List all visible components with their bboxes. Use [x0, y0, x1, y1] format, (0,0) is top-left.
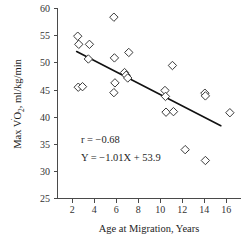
y-axis-ticks: [54, 9, 58, 199]
data-point-marker: [162, 108, 170, 116]
y-tick-label-25: 25: [40, 193, 50, 204]
x-tick-label-2: 2: [70, 204, 75, 215]
x-tick-label-8: 8: [136, 204, 141, 215]
y-tick-label-60: 60: [40, 3, 50, 14]
y-axis-title-prefix: Max V: [12, 119, 23, 149]
data-point-marker: [125, 48, 133, 56]
regression-fit-line: [77, 51, 221, 125]
y-tick-label-35: 35: [40, 139, 50, 150]
x-tick-label-10: 10: [155, 204, 165, 215]
y-tick-label-40: 40: [40, 112, 50, 123]
x-tick-label-4: 4: [92, 204, 97, 215]
x-tick-label-6: 6: [114, 204, 119, 215]
y-tick-label-45: 45: [40, 85, 50, 96]
x-tick-label-12: 12: [177, 204, 187, 215]
annotation-correlation: r = −0.68: [81, 134, 120, 145]
data-point-marker: [74, 32, 82, 40]
data-point-marker: [169, 107, 177, 115]
y-axis-title-suffix: , ml/kg/min: [12, 58, 23, 108]
y-axis-title: Max V̇O2, ml/kg/min: [11, 58, 26, 148]
x-axis-ticks: [72, 199, 226, 203]
data-point-marker: [110, 13, 118, 21]
y-axis-tick-labels: 60 55 50 45 40 35 30 25: [40, 3, 50, 204]
y-tick-label-55: 55: [40, 30, 50, 41]
data-point-marker: [110, 54, 118, 62]
scatter-plot-figure: 60 55 50 45 40 35 30 25 2 4 6 8 10: [0, 0, 249, 244]
svg-text:Max V̇O2, ml/kg/min: Max V̇O2, ml/kg/min: [11, 58, 26, 148]
data-point-marker: [111, 79, 119, 87]
plot-canvas: 60 55 50 45 40 35 30 25 2 4 6 8 10: [0, 0, 249, 244]
x-axis-tick-labels: 2 4 6 8 10 12 14 16: [70, 204, 232, 215]
data-point-marker: [110, 88, 118, 96]
data-point-marker: [181, 145, 189, 153]
y-tick-label-50: 50: [40, 57, 50, 68]
data-point-marker: [85, 40, 93, 48]
x-axis-title: Age at Migration, Years: [99, 223, 200, 234]
x-tick-label-14: 14: [199, 204, 209, 215]
data-point-marker: [201, 156, 209, 164]
annotation-regression-equation: Y = −1.01X + 53.9: [81, 152, 161, 163]
data-point-marker: [168, 61, 176, 69]
data-point-marker: [226, 109, 234, 117]
y-tick-label-30: 30: [40, 166, 50, 177]
x-tick-label-16: 16: [221, 204, 231, 215]
data-point-marker: [75, 40, 83, 48]
